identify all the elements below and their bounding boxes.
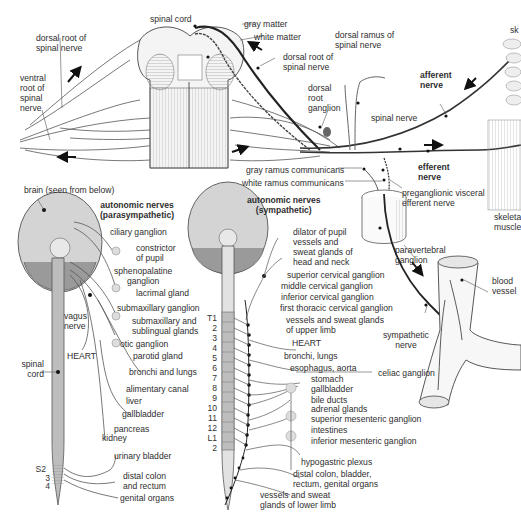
label-bronchi-lungs: bronchi and lungs [129,367,197,377]
label-preganglionic: preganglionic visceral efferent nerve [402,188,485,208]
level-t8: 8 [201,383,217,393]
label-liver: liver [126,396,142,406]
label-sympathetic-nerve: sympathetic nerve [383,330,429,350]
label-dorsal-root-ganglion: dorsal root ganglion [308,83,341,113]
label-dorsal-root-right: dorsal root of spinal nerve [283,52,333,72]
level-t2: 2 [201,323,217,333]
label-middle-cervical-ganglion: middle cervical ganglion [281,281,373,291]
direction-arrows [62,44,476,272]
label-distal-colon-rectum: distal colon and rectum [123,471,166,491]
level-s4: 4 [34,481,50,491]
level-t9: 9 [201,393,217,403]
label-esophagus-aorta: esophagus, aorta [290,363,356,373]
label-dorsal-ramus: dorsal ramus of spinal nerve [335,30,394,50]
label-white-matter: white matter [254,32,301,42]
label-distal-colon-bladder: distal colon, bladder, rectum, genital o… [293,469,378,489]
label-alimentary-canal: alimentary canal [126,384,189,394]
label-stomach: stomach [311,374,343,384]
label-white-ramus: white ramus communicans [242,178,344,188]
label-ventral-root: ventral root of spinal nerve [20,73,46,113]
label-spinal-cord: spinal cord [150,14,192,24]
label-celiac-ganglion: celiac ganglion [378,368,435,378]
label-vagus-nerve: vagus nerve [64,311,87,331]
label-first-thoracic-ganglion: first thoracic cervical ganglion [280,303,393,313]
label-kidney: kidney [102,433,127,443]
label-adrenal-glands: adrenal glands [311,404,367,414]
label-efferent-nerve: efferent nerve [418,162,450,182]
level-t7: 7 [201,373,217,383]
label-urinary-bladder: urinary bladder [114,451,171,461]
label-blood-vessel: blood vessel [492,276,516,296]
label-spinal-cord-para: spinal cord [20,359,44,379]
level-t5: 5 [201,353,217,363]
label-dilator-pupil: dilator of pupil [293,227,347,237]
level-t1: T1 [201,313,217,323]
level-t6: 6 [201,363,217,373]
label-vessels-upper-limb: vessels and sweat glands of upper limb [286,315,384,335]
level-t10: 10 [201,403,217,413]
label-lacrimal-gland: lacrimal gland [136,288,189,298]
sympathetic-brain [188,182,268,510]
level-l1: L1 [201,433,217,443]
label-submaxillary-ganglion: submaxillary ganglion [117,303,200,313]
label-afferent-nerve: afferent nerve [420,70,452,90]
label-sphenopalatine-ganglion: sphenopalatine ganglion [114,266,172,286]
level-t4: 4 [201,343,217,353]
label-spinal-nerve: spinal nerve [371,113,417,123]
label-gray-matter: gray matter [244,19,287,29]
label-heart-para: HEART [67,351,96,361]
label-brain: brain (seen from below) [24,185,114,195]
label-otic-ganglion: otic ganglion [120,339,168,349]
level-l2: 2 [201,443,217,453]
label-superior-cervical-ganglion: superior cervical ganglion [287,270,384,280]
label-inferior-cervical-ganglion: inferior cervical ganglion [281,292,374,302]
label-gallbladder-symp: gallbladder [311,384,353,394]
level-t12: 12 [201,423,217,433]
label-parotid-gland: parotid gland [133,351,183,361]
label-paravertebral-ganglion: paravertebral ganglion [395,245,446,265]
label-gray-ramus: gray ramus communicans [246,165,344,175]
parasympathetic-title: autonomic nerves (parasympathetic) [100,200,174,220]
label-vessels-lower-limb: vessels and sweat glands of lower limb [260,490,336,510]
sympathetic-title: autonomic nerves (sympathetic) [247,195,321,215]
label-intestines: intestines [311,425,347,435]
label-inferior-mesenteric: inferior mesenteric ganglion [311,436,417,446]
label-hypogastric-plexus: hypogastric plexus [301,457,372,467]
label-genital-organs: genital organs [120,493,174,503]
label-constrictor-pupil: constrictor of pupil [136,243,176,263]
label-skeletal-muscle: skeleta muscle [494,212,521,232]
level-t11: 11 [201,413,217,423]
label-bronchi-lungs-symp: bronchi, lungs [284,351,338,361]
label-skin: sk [510,25,519,35]
label-ciliary-ganglion: ciliary ganglion [110,227,167,237]
label-superior-mesenteric: superior mesenteric ganglion [311,414,421,424]
label-submaxillary-glands: submaxillary and sublingual glands [132,316,198,336]
label-vessels-head-neck: vessels and sweat glands of head and nec… [293,237,353,267]
label-gallbladder-para: gallbladder [122,409,164,419]
label-dorsal-root-left: dorsal root of spinal nerve [36,33,86,53]
label-heart-symp: HEART [292,338,321,348]
level-t3: 3 [201,333,217,343]
